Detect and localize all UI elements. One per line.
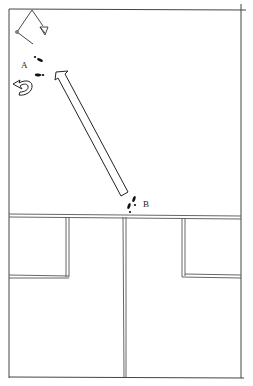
center-divider [123, 217, 126, 378]
label-position-b: B [143, 199, 149, 209]
counter-wall [9, 214, 241, 219]
left-booth [9, 217, 69, 278]
compass-marker-icon [15, 10, 48, 44]
curved-turn-arrow-icon [13, 80, 32, 95]
footprints-a-icon [34, 56, 45, 77]
label-position-a: A [21, 60, 28, 70]
footprints-b-icon [127, 196, 137, 214]
movement-arrow-icon [55, 71, 128, 196]
right-booth [182, 219, 241, 278]
diagram-canvas: A B [0, 0, 253, 386]
